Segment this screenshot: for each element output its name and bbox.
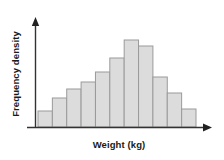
histogram-bar <box>182 109 196 127</box>
histogram-bar <box>38 111 52 127</box>
histogram-figure: Frequency density Weight (kg) <box>0 0 224 160</box>
y-axis-label: Frequency density <box>10 31 21 117</box>
histogram-bar <box>110 58 124 127</box>
histogram-bar <box>153 77 167 127</box>
histogram-canvas: Frequency density Weight (kg) <box>0 0 224 160</box>
histogram-bar <box>167 93 181 127</box>
histogram-bar <box>67 89 81 127</box>
x-axis-label: Weight (kg) <box>93 139 146 150</box>
histogram-bar <box>95 72 109 127</box>
histogram-bar <box>139 46 153 127</box>
histogram-bar <box>124 40 138 127</box>
histogram-bar <box>52 98 66 127</box>
histogram-bar <box>81 82 95 127</box>
